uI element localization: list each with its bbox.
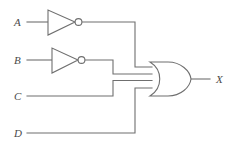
output-label-x: X <box>215 73 224 85</box>
not-gate-b-bubble-icon <box>78 57 85 64</box>
not-gate-a <box>48 10 82 35</box>
input-label-c: C <box>14 90 22 102</box>
or-gate <box>150 62 191 96</box>
not-gate-b <box>52 48 85 73</box>
or-gate-body <box>150 62 191 96</box>
wire-d-to-or <box>27 88 152 133</box>
not-gate-a-triangle <box>48 10 75 35</box>
logic-circuit-figure: A B C D X <box>0 0 240 151</box>
not-gate-b-triangle <box>52 48 78 73</box>
input-label-a: A <box>13 16 21 28</box>
input-label-d: D <box>13 127 22 139</box>
not-gate-a-bubble-icon <box>75 19 82 26</box>
label-layer: A B C D X <box>13 16 224 139</box>
circuit-canvas: A B C D X <box>0 0 240 151</box>
input-label-b: B <box>14 54 21 66</box>
wire-c-to-or <box>27 81 152 97</box>
